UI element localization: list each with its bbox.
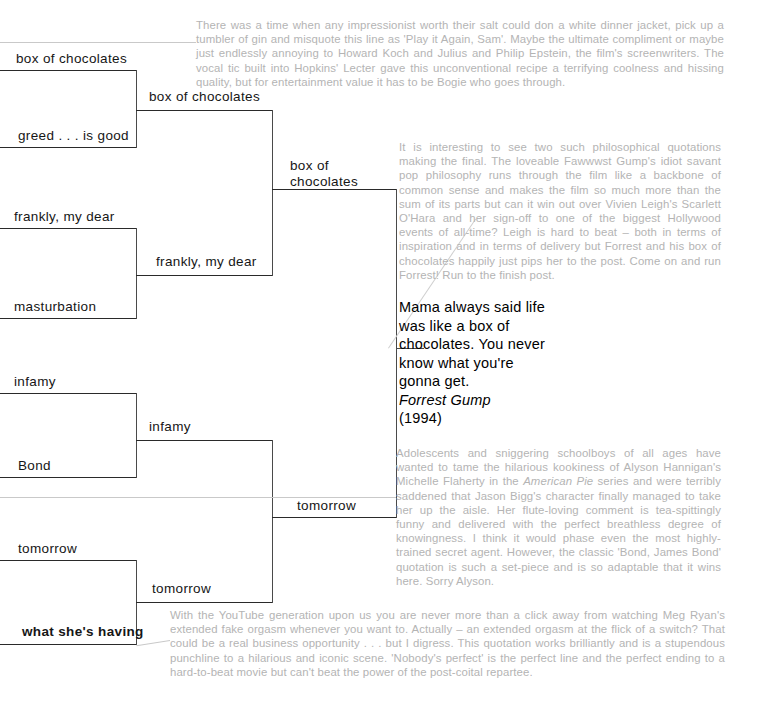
leader-line-bottom xyxy=(136,640,170,646)
slot-rule-r2-4 xyxy=(136,602,272,603)
commentary-bottom: With the YouTube generation upon us you … xyxy=(170,608,725,679)
slot-rule-r3-2 xyxy=(272,517,396,518)
bracket-slot-r2-4[interactable]: tomorrow xyxy=(152,581,211,596)
slot-rule-r1-2 xyxy=(0,147,136,148)
slot-rule-r1-7 xyxy=(0,560,136,561)
bracket-slot-r1-5[interactable]: infamy xyxy=(14,374,56,389)
slot-rule-r2-1 xyxy=(136,110,272,111)
slot-rule-r2-3 xyxy=(136,440,272,441)
slot-rule-r1-1 xyxy=(0,70,136,71)
bracket-slot-r2-2[interactable]: frankly, my dear xyxy=(156,254,257,269)
bracket-slot-r3-2[interactable]: tomorrow xyxy=(297,498,356,514)
bracket-slot-r1-6[interactable]: Bond xyxy=(18,458,51,473)
bracket-slot-r1-7[interactable]: tomorrow xyxy=(18,541,77,556)
bracket-slot-r1-1[interactable]: box of chocolates xyxy=(16,51,127,66)
bracket-slot-r3-1[interactable]: box of chocolates xyxy=(290,158,358,190)
bracket-connector-r2-pair2 xyxy=(272,440,273,603)
slot-rule-r1-4 xyxy=(0,318,136,319)
bracket-slot-r2-1[interactable]: box of chocolates xyxy=(149,89,260,104)
commentary-film-title-american-pie: American Pie xyxy=(523,475,593,487)
commentary-upper-right: It is interesting to see two such philos… xyxy=(399,140,721,282)
winner-film-year: (1994) xyxy=(399,409,559,428)
bracket-slot-r1-8[interactable]: what she's having xyxy=(22,624,144,639)
bracket-slot-r1-2[interactable]: greed . . . is good xyxy=(18,128,129,143)
bracket-slot-r3-1-line2: chocolates xyxy=(290,174,358,190)
slot-rule-r1-8 xyxy=(0,644,136,645)
winner-film-title: Forrest Gump xyxy=(399,391,559,410)
leader-line-top xyxy=(0,42,196,43)
commentary-lower-right-part2: series and were terribly saddened that J… xyxy=(396,475,721,586)
commentary-top: There was a time when any impressionist … xyxy=(196,18,724,89)
commentary-lower-right: Adolescents and sniggering schoolboys of… xyxy=(396,446,721,588)
winner-quote-block: Mama always said life was like a box of … xyxy=(399,298,559,428)
bracket-slot-r2-3[interactable]: infamy xyxy=(149,419,191,434)
bracket-connector-r2-pair1 xyxy=(272,110,273,276)
bracket-slot-r1-3[interactable]: frankly, my dear xyxy=(14,209,115,224)
slot-rule-r1-3 xyxy=(0,228,136,229)
slot-rule-r2-2 xyxy=(136,275,272,276)
bracket-slot-r3-1-line1: box of xyxy=(290,158,358,174)
winner-quote-text: Mama always said life was like a box of … xyxy=(399,299,545,389)
bracket-connector-r1-pair1 xyxy=(136,70,137,148)
bracket-connector-r1-pair3 xyxy=(136,393,137,478)
bracket-connector-r1-pair2 xyxy=(136,228,137,319)
slot-rule-r1-5 xyxy=(0,393,136,394)
slot-rule-r1-6 xyxy=(0,477,136,478)
bracket-slot-r1-4[interactable]: masturbation xyxy=(14,299,96,314)
